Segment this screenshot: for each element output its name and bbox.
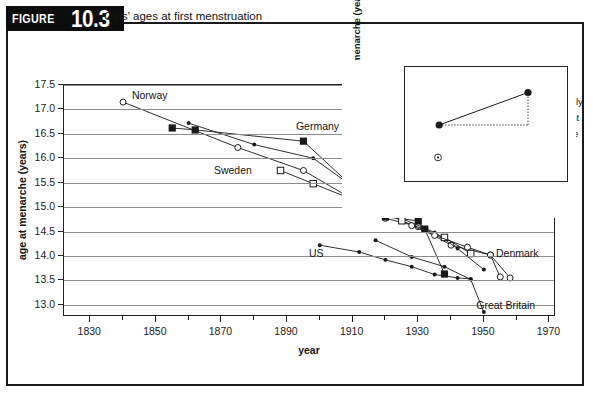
inset-maori-marker-dot <box>437 156 439 158</box>
data-point <box>456 276 460 280</box>
x-axis-tick-mark <box>384 316 385 320</box>
x-axis-tick-mark <box>483 316 484 322</box>
data-point <box>399 218 405 224</box>
data-point <box>482 268 486 272</box>
data-point <box>433 273 437 277</box>
data-point <box>192 126 199 133</box>
data-point <box>383 258 387 262</box>
data-point <box>120 99 126 105</box>
y-axis-tick-mark <box>58 133 63 134</box>
x-axis-tick-mark <box>516 316 517 320</box>
x-axis-tick-mark <box>188 316 189 320</box>
data-point <box>442 265 446 269</box>
data-point <box>415 217 422 224</box>
y-axis-tick-mark <box>58 182 63 183</box>
data-point <box>409 223 415 229</box>
y-axis-tick-mark <box>58 84 63 85</box>
data-point <box>432 232 438 238</box>
data-point <box>277 167 283 173</box>
x-axis-tick-mark <box>417 316 418 322</box>
inset-series-line-pakeha <box>439 93 528 125</box>
x-axis-tick-label: 1830 <box>78 325 101 337</box>
x-axis-tick-mark <box>286 316 287 322</box>
inset-data-point <box>436 121 443 128</box>
series-label-great-britain: Great Britain <box>476 299 535 311</box>
inset-chart-svg <box>405 67 569 183</box>
data-point <box>410 265 414 269</box>
data-point <box>235 145 241 151</box>
data-point <box>374 238 378 242</box>
y-axis-tick-label: 13.0 <box>0 298 55 310</box>
data-point <box>300 138 307 145</box>
data-point <box>497 274 503 280</box>
figure-label-word: FIGURE <box>12 11 55 26</box>
y-axis-tick-mark <box>58 206 63 207</box>
y-axis-tick-mark <box>58 304 63 305</box>
inset-data-point <box>524 89 531 96</box>
series-label-germany: Germany <box>296 120 339 132</box>
series-label-norway: Norway <box>132 89 168 101</box>
inset-series-marker-maori <box>435 154 442 161</box>
x-axis-tick-mark <box>122 316 123 320</box>
x-axis-tick-label: 1930 <box>406 325 429 337</box>
gridline-y <box>64 280 554 281</box>
data-point <box>187 121 191 125</box>
x-axis-tick-label: 1850 <box>143 325 166 337</box>
x-axis-tick-mark <box>450 316 451 320</box>
x-axis-tick-label: 1890 <box>274 325 297 337</box>
x-axis-tick-label: 1910 <box>340 325 363 337</box>
y-axis-tick-mark <box>58 279 63 280</box>
x-axis-tick-mark <box>220 316 221 322</box>
data-point <box>252 143 256 147</box>
x-axis-title: year <box>298 344 320 356</box>
data-point <box>464 244 470 250</box>
y-axis-tick-mark <box>58 108 63 109</box>
inset-chart-plot-area <box>404 66 568 182</box>
figure-root: FIGURE 10.3 Girls' ages at first menstru… <box>0 0 593 395</box>
data-point <box>357 250 361 254</box>
series-line <box>412 226 501 277</box>
y-axis-tick-label: 13.5 <box>0 273 55 285</box>
y-axis-tick-label: 16.5 <box>0 127 55 139</box>
series-label-us: US <box>309 247 324 259</box>
y-axis-tick-label: 17.0 <box>0 102 55 114</box>
x-axis-tick-mark <box>548 316 549 322</box>
y-axis-tick-mark <box>58 157 63 158</box>
gridline-y <box>64 232 554 233</box>
x-axis-tick-mark <box>253 316 254 320</box>
series-label-sweden: Sweden <box>214 164 252 176</box>
data-point <box>300 167 306 173</box>
x-axis-tick-mark <box>319 316 320 320</box>
series-label-denmark: Denmark <box>496 247 539 259</box>
y-axis-tick-mark <box>58 255 63 256</box>
x-axis-tick-mark <box>89 316 90 322</box>
data-point <box>456 247 460 251</box>
x-axis-tick-label: 1870 <box>209 325 232 337</box>
figure-caption: Girls' ages at first menstruation <box>104 10 262 22</box>
y-axis-tick-mark <box>58 231 63 232</box>
x-axis-tick-mark <box>352 316 353 322</box>
x-axis-tick-label: 1950 <box>471 325 494 337</box>
y-axis-title: age at menarche (years) <box>16 140 28 260</box>
y-axis-tick-label: 17.5 <box>0 78 55 90</box>
x-axis-tick-mark <box>155 316 156 322</box>
x-axis-tick-label: 1970 <box>537 325 560 337</box>
data-point <box>169 124 176 131</box>
